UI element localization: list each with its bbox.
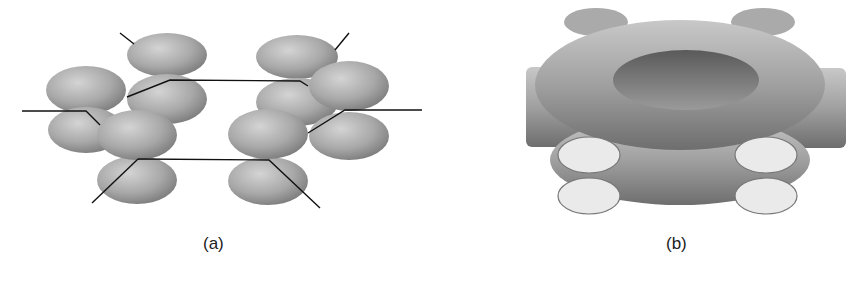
panel-a-label: (a) (203, 234, 224, 254)
panel-b-label: (b) (666, 234, 687, 254)
p-orbital-lobe (97, 110, 177, 160)
torus-hole (613, 50, 759, 110)
bond-line (335, 33, 349, 50)
panel-b-pi-orbital (526, 8, 846, 214)
p-orbital-lobe (309, 61, 389, 111)
figure-canvas (0, 0, 856, 285)
p-orbital-lobe (127, 33, 207, 77)
front-cap (735, 178, 797, 214)
p-orbital-lobe (228, 157, 308, 205)
front-cap (735, 137, 797, 173)
front-cap (558, 178, 620, 214)
p-orbital-lobe (309, 112, 389, 160)
p-orbital-lobe (46, 66, 126, 114)
front-cap (558, 137, 620, 173)
bond-line (120, 33, 134, 44)
p-orbital-lobe (228, 109, 308, 159)
panel-a-orbitals (46, 33, 389, 205)
p-orbital-lobe (97, 156, 177, 204)
